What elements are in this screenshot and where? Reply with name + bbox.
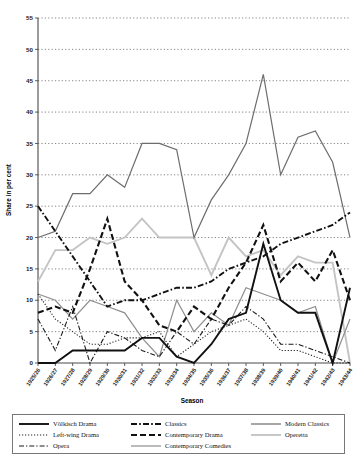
series-line-left-wing-drama <box>38 294 350 363</box>
x-tick-label: 1927/28 <box>59 367 76 387</box>
series-line-v-lkisch-drama <box>38 244 350 363</box>
legend-label-operetta: Operetta <box>285 431 308 438</box>
y-tick-label: 20 <box>26 234 33 241</box>
legend-grid: Völkisch DramaClassicsModern ClassicsLef… <box>18 418 339 451</box>
legend-swatch-left-wing-drama <box>18 431 50 439</box>
series-line-opera <box>38 307 350 363</box>
series-group <box>38 74 350 363</box>
y-tick-label: 45 <box>26 77 33 84</box>
share-in-per-cent-line-chart: 0510152025303540455055 1925/261926/27192… <box>0 0 357 464</box>
x-tick-label: 1926/27 <box>42 367 59 387</box>
y-tick-label: 0 <box>30 359 34 366</box>
legend-label-classics: Classics <box>165 420 187 427</box>
y-tick-label: 15 <box>26 265 33 272</box>
legend-item-empty <box>250 442 350 450</box>
legend-label-modern-classics: Modern Classics <box>285 420 329 427</box>
y-tick-label: 40 <box>26 108 33 115</box>
legend-item-left-wing-drama: Left-wing Drama <box>18 431 130 439</box>
x-tick-label: 1928/29 <box>77 367 94 387</box>
y-tick-label: 35 <box>26 140 33 147</box>
series-line-operetta <box>38 219 350 363</box>
legend-item-opera: Opera <box>18 442 130 450</box>
legend-label-v-lkisch-drama: Völkisch Drama <box>53 420 96 427</box>
y-tick-label: 50 <box>26 46 33 53</box>
x-tick-label: 1934/35 <box>181 367 198 387</box>
y-tick-label: 55 <box>26 14 33 21</box>
x-tick-label: 1942/43 <box>319 367 336 387</box>
x-tick-label: 1936/37 <box>215 367 232 387</box>
x-tick-label: 1940/41 <box>285 367 302 387</box>
y-axis-title: Share in per cent <box>5 163 13 216</box>
x-tick-label: 1935/36 <box>198 367 215 387</box>
legend-item-modern-classics: Modern Classics <box>250 420 350 428</box>
chart-legend: Völkisch DramaClassicsModern ClassicsLef… <box>12 414 345 454</box>
legend-swatch-modern-classics <box>250 420 282 428</box>
x-tick-label: 1939/40 <box>267 367 284 387</box>
legend-label-left-wing-drama: Left-wing Drama <box>53 431 99 438</box>
x-tick-label: 1937/38 <box>233 367 250 387</box>
x-tick-label-group: 1925/261926/271927/281928/291929/301930/… <box>25 366 354 387</box>
y-tick-label: 25 <box>26 202 33 209</box>
y-tick-group: 0510152025303540455055 <box>26 14 38 366</box>
series-line-classics <box>38 206 350 306</box>
x-tick-label: 1941/42 <box>302 367 319 387</box>
legend-swatch-contemporary-comedies <box>130 442 162 450</box>
legend-swatch-opera <box>18 442 50 450</box>
chart-figure: 0510152025303540455055 1925/261926/27192… <box>0 0 357 464</box>
x-tick-label: 1925/26 <box>25 367 42 387</box>
legend-item-contemporary-comedies: Contemporary Comedies <box>130 442 250 450</box>
y-tick-label: 10 <box>26 296 33 303</box>
x-tick-label: 1932/33 <box>146 367 163 387</box>
series-line-modern-classics <box>38 74 350 237</box>
y-tick-label: 30 <box>26 171 33 178</box>
legend-item-operetta: Operetta <box>250 431 350 439</box>
legend-swatch-classics <box>130 420 162 428</box>
legend-label-contemporary-drama: Contemporary Drama <box>165 431 223 438</box>
legend-swatch-contemporary-drama <box>130 431 162 439</box>
x-tick-label: 1943/44 <box>337 366 354 387</box>
legend-item-contemporary-drama: Contemporary Drama <box>130 431 250 439</box>
legend-item-classics: Classics <box>130 420 250 428</box>
x-tick-label: 1930/31 <box>111 367 128 387</box>
x-tick-label: 1929/30 <box>94 367 111 387</box>
x-axis-title: Season <box>181 397 204 404</box>
legend-item-v-lkisch-drama: Völkisch Drama <box>18 420 130 428</box>
x-tick-label: 1931/32 <box>129 367 146 387</box>
legend-label-opera: Opera <box>53 442 69 449</box>
y-tick-label: 5 <box>30 328 34 335</box>
x-tick-label: 1933/34 <box>163 366 180 387</box>
series-line-contemporary-comedies <box>38 288 350 363</box>
x-tick-label: 1938/39 <box>250 367 267 387</box>
legend-swatch-operetta <box>250 431 282 439</box>
legend-swatch-v-lkisch-drama <box>18 420 50 428</box>
legend-swatch-empty <box>250 442 282 450</box>
legend-label-contemporary-comedies: Contemporary Comedies <box>165 442 231 449</box>
